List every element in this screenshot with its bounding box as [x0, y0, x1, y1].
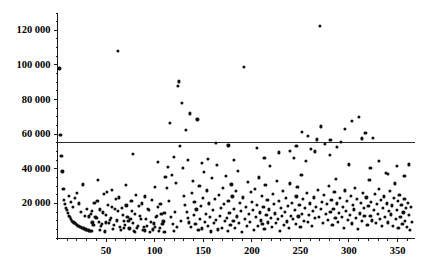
data-point — [58, 67, 61, 70]
y-axis-minor-tick — [56, 220, 59, 221]
x-axis-major-tick — [348, 238, 349, 242]
data-point — [342, 226, 345, 229]
data-point — [394, 218, 397, 221]
data-point — [205, 212, 208, 215]
data-point — [175, 225, 178, 228]
data-point — [171, 173, 174, 176]
data-point — [247, 213, 250, 216]
data-point — [327, 184, 330, 187]
data-point — [295, 145, 298, 148]
data-point — [288, 182, 291, 185]
x-axis-minor-tick — [115, 238, 116, 241]
data-point — [369, 214, 372, 217]
data-point — [355, 197, 358, 200]
data-point — [97, 178, 100, 181]
data-point — [291, 217, 294, 220]
data-point — [148, 230, 151, 233]
data-point — [372, 136, 375, 139]
data-point — [409, 228, 412, 231]
data-point — [232, 219, 235, 222]
x-axis-minor-tick — [144, 238, 145, 241]
data-point — [328, 153, 331, 156]
data-point — [70, 200, 73, 203]
data-point — [194, 223, 197, 226]
data-point — [253, 187, 256, 190]
data-point — [191, 179, 194, 182]
data-point — [385, 202, 388, 205]
data-point — [365, 196, 368, 199]
data-point — [178, 145, 181, 148]
data-point — [122, 219, 125, 222]
data-point — [186, 217, 189, 220]
x-axis-minor-tick — [232, 238, 233, 241]
data-point — [198, 184, 201, 187]
data-point — [288, 149, 291, 152]
data-point — [321, 221, 324, 224]
data-point — [309, 147, 312, 150]
data-point — [391, 224, 394, 227]
data-point — [337, 220, 340, 223]
data-point — [357, 115, 360, 118]
data-point — [379, 198, 382, 201]
data-point — [261, 222, 264, 225]
data-point — [201, 227, 204, 230]
data-point — [233, 159, 236, 162]
data-point — [408, 213, 411, 216]
data-point — [161, 223, 164, 226]
data-point — [192, 213, 195, 216]
data-point — [73, 197, 76, 200]
data-point — [377, 159, 380, 162]
data-point — [262, 206, 265, 209]
data-point — [255, 204, 258, 207]
data-point — [381, 207, 384, 210]
data-point — [231, 195, 234, 198]
data-point — [137, 224, 140, 227]
data-point — [316, 188, 319, 191]
data-point — [242, 65, 245, 68]
data-point — [313, 216, 316, 219]
x-axis-minor-tick — [86, 238, 87, 241]
data-point — [280, 214, 283, 217]
data-point — [241, 196, 244, 199]
data-point — [169, 121, 172, 124]
data-point — [96, 199, 99, 202]
data-point — [240, 230, 243, 233]
data-point — [211, 209, 214, 212]
data-point — [152, 222, 155, 225]
data-point — [403, 174, 406, 177]
y-axis-minor-tick — [56, 125, 59, 126]
data-point — [213, 197, 216, 200]
data-point — [292, 156, 295, 159]
plot-area: 20 00040 00060 00080 000100 000120 00050… — [0, 0, 424, 266]
x-axis-minor-tick — [310, 238, 311, 241]
data-point — [320, 200, 323, 203]
x-axis-minor-tick — [290, 238, 291, 241]
data-point — [154, 215, 157, 218]
data-point — [129, 217, 132, 220]
data-point — [347, 163, 350, 166]
data-point — [99, 228, 102, 231]
data-point — [245, 225, 248, 228]
data-point — [277, 151, 280, 154]
x-axis-tick-label: 350 — [390, 246, 406, 257]
data-point — [243, 217, 246, 220]
x-axis-line — [58, 238, 416, 239]
data-point — [410, 205, 413, 208]
data-point — [282, 223, 285, 226]
y-axis-major-tick — [54, 30, 58, 31]
data-point — [348, 214, 351, 217]
data-point — [173, 210, 176, 213]
data-point — [398, 193, 401, 196]
x-axis-minor-tick — [242, 238, 243, 241]
data-point — [352, 208, 355, 211]
data-point — [323, 142, 326, 145]
data-point — [100, 225, 103, 228]
data-point — [307, 134, 310, 137]
data-point — [172, 229, 175, 232]
data-point — [162, 220, 165, 223]
data-point — [124, 184, 127, 187]
data-point — [210, 177, 213, 180]
data-point — [240, 210, 243, 213]
data-point — [363, 215, 366, 218]
data-point — [238, 221, 241, 224]
